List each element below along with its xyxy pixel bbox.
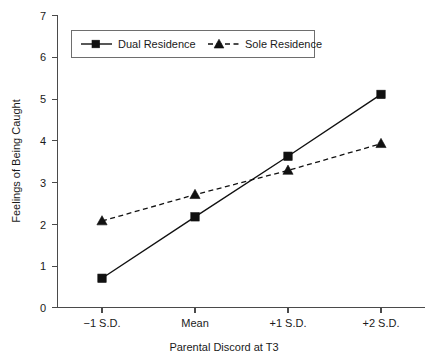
y-tick-label: 7 — [40, 10, 46, 22]
square-marker-icon — [191, 213, 199, 221]
triangle-marker-icon — [190, 189, 200, 198]
y-tick-label: 0 — [40, 302, 46, 314]
chart-figure: 7 6 5 4 3 2 1 0 −1 S.D. Mean +1 S.D. +2 … — [0, 0, 438, 363]
x-tick-label: +1 S.D. — [270, 317, 307, 329]
line-chart: 7 6 5 4 3 2 1 0 −1 S.D. Mean +1 S.D. +2 … — [0, 0, 438, 363]
x-axis-title: Parental Discord at T3 — [169, 341, 278, 353]
x-tick-label: −1 S.D. — [84, 317, 121, 329]
y-axis-tick-labels: 7 6 5 4 3 2 1 0 — [40, 10, 46, 314]
y-tick-label: 4 — [40, 135, 46, 147]
square-marker-icon — [92, 40, 100, 48]
square-marker-icon — [377, 90, 385, 98]
x-tick-label: +2 S.D. — [363, 317, 400, 329]
y-axis-title: Feelings of Being Caught — [10, 99, 22, 223]
legend-label-sole-residence: Sole Residence — [245, 38, 322, 50]
x-tick-label: Mean — [181, 317, 209, 329]
square-marker-icon — [284, 152, 292, 160]
y-tick-label: 5 — [40, 93, 46, 105]
sole-residence-line — [102, 144, 381, 221]
y-tick-label: 3 — [40, 177, 46, 189]
y-tick-label: 6 — [40, 51, 46, 63]
square-marker-icon — [98, 274, 106, 282]
sole-residence-markers — [97, 138, 386, 225]
y-tick-label: 1 — [40, 260, 46, 272]
triangle-marker-icon — [376, 138, 386, 147]
x-axis-tick-labels: −1 S.D. Mean +1 S.D. +2 S.D. — [84, 317, 400, 329]
legend-label-dual-residence: Dual Residence — [118, 38, 196, 50]
series-dual-residence — [98, 90, 385, 282]
axis-frame — [58, 15, 426, 308]
dual-residence-line — [102, 94, 381, 278]
y-axis-ticks — [52, 16, 58, 308]
series-sole-residence — [97, 138, 386, 225]
x-axis-ticks — [102, 308, 381, 314]
y-tick-label: 2 — [40, 219, 46, 231]
chart-legend: Dual Residence Sole Residence — [72, 31, 323, 58]
